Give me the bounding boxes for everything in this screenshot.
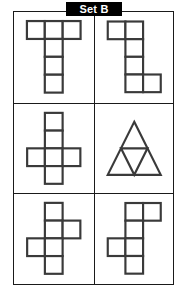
offset-cube-net-left-svg xyxy=(14,194,94,284)
offset-net-right-squares xyxy=(107,203,160,274)
figure-grid xyxy=(14,12,173,284)
grid-cell-top-left[interactable] xyxy=(14,12,94,103)
t-shape-polyomino-svg xyxy=(14,12,94,103)
cross-cube-net-svg xyxy=(14,104,94,194)
subdivided-triangle-svg xyxy=(95,104,174,194)
offset-net-left-squares xyxy=(27,203,80,274)
cross-net-squares xyxy=(27,113,80,184)
figure-bottom-left xyxy=(14,194,94,284)
figure-top-left xyxy=(14,12,94,103)
figure-top-right xyxy=(95,12,174,103)
figure-grid-frame xyxy=(13,11,174,285)
z-shape-squares xyxy=(107,22,160,93)
grid-cell-bottom-left[interactable] xyxy=(14,193,94,284)
grid-cell-middle-left[interactable] xyxy=(14,103,94,194)
figure-middle-left xyxy=(14,104,94,194)
set-title-banner: Set B xyxy=(66,2,122,16)
grid-cell-top-right[interactable] xyxy=(94,12,174,103)
grid-cell-bottom-right[interactable] xyxy=(94,193,174,284)
grid-cell-middle-right[interactable] xyxy=(94,103,174,194)
offset-cube-net-right-svg xyxy=(95,194,174,284)
page-title: Set B xyxy=(79,4,108,15)
figure-middle-right xyxy=(95,104,174,194)
figure-bottom-right xyxy=(95,194,174,284)
t-shape-squares xyxy=(27,21,81,93)
page-root: Set B xyxy=(0,0,187,294)
z-shape-polyomino-svg xyxy=(95,12,174,103)
